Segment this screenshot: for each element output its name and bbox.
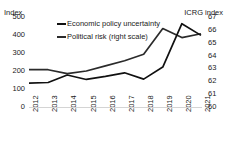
y-axis-right-tick: 66 (208, 26, 224, 34)
y-axis-right-tick: 63 (208, 64, 224, 72)
y-axis-left-tick: 100 (1, 85, 25, 93)
y-axis-left-tick: 300 (1, 49, 25, 57)
y-axis-right-tick: 67 (208, 13, 224, 21)
legend-swatch-icon (57, 36, 66, 38)
legend-item: Political risk (right scale) (57, 31, 160, 42)
y-axis-right-tick: 65 (208, 39, 224, 47)
legend-swatch-icon (57, 23, 66, 25)
legend-item-label: Economic policy uncertainty (67, 19, 160, 28)
chart-legend: Economic policy uncertaintyPolitical ris… (57, 18, 160, 44)
y-axis-left-tick: 0 (1, 103, 25, 111)
y-axis-right-tick: 62 (208, 77, 224, 85)
y-axis-left-tick: 200 (1, 67, 25, 75)
legend-item: Economic policy uncertainty (57, 18, 160, 29)
chart-container: Index ICRG index 5004003002001000 676665… (0, 0, 226, 142)
x-axis-tick: 2021 (204, 95, 212, 112)
legend-item-label: Political risk (right scale) (67, 32, 148, 41)
y-axis-left-tick: 500 (1, 13, 25, 21)
y-axis-right-tick: 64 (208, 52, 224, 60)
y-axis-left-tick: 400 (1, 31, 25, 39)
